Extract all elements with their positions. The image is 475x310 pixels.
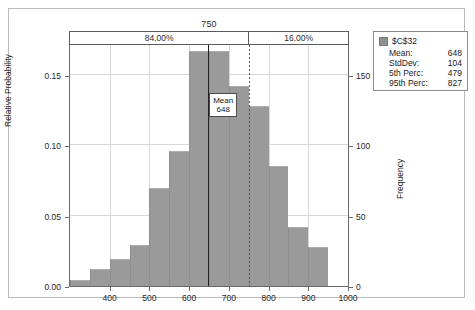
legend-series-row: $C$32: [379, 36, 462, 46]
x-tick-label: 900: [288, 293, 328, 303]
legend-stat-row: StdDev:104: [379, 58, 462, 68]
mean-line[interactable]: [208, 45, 209, 286]
histogram-bar[interactable]: [70, 280, 90, 286]
x-tick-label: 500: [129, 293, 169, 303]
x-tick-mark: [189, 287, 190, 291]
histogram-bar[interactable]: [209, 51, 229, 286]
y-tick-mark-left: [65, 217, 69, 218]
certainty-band-right-percent: 16.00%: [249, 32, 348, 44]
certainty-threshold-label: 750: [69, 19, 349, 29]
legend-stats-list: Mean:648StdDev:1045th Perc:47995th Perc:…: [379, 48, 462, 88]
y-tick-mark-right: [349, 146, 353, 147]
forecast-chart-window: 750 84.00% 16.00% Mean648 Relative Proba…: [8, 8, 465, 298]
y-tick-label-right: 0: [356, 282, 390, 292]
x-tick-label: 700: [209, 293, 249, 303]
y-tick-label-right: 150: [356, 71, 390, 81]
histogram-bar[interactable]: [249, 106, 269, 286]
histogram-bar[interactable]: [130, 245, 150, 286]
y-axis-title-right: Frequency: [395, 159, 405, 199]
x-tick-label: 400: [90, 293, 130, 303]
histogram-bar[interactable]: [189, 51, 209, 286]
legend-color-swatch-icon: [379, 37, 388, 46]
x-tick-mark: [348, 287, 349, 291]
legend-stat-value: 827: [440, 78, 462, 88]
certainty-divider-line[interactable]: [249, 45, 250, 286]
histogram-bar[interactable]: [90, 269, 110, 286]
y-tick-mark-right: [349, 76, 353, 77]
legend-stat-value: 479: [440, 68, 462, 78]
legend-stat-value: 104: [440, 58, 462, 68]
legend-stat-value: 648: [440, 48, 462, 58]
y-tick-mark-right: [349, 287, 353, 288]
histogram-bar[interactable]: [308, 247, 328, 286]
legend-stat-label: Mean:: [389, 48, 440, 58]
x-tick-mark: [269, 287, 270, 291]
histogram-plot-area: Mean648: [69, 45, 349, 287]
y-tick-label-left: 0.05: [27, 212, 61, 222]
y-tick-mark-right: [349, 217, 353, 218]
y-axis-title-left: Relative Probability: [3, 54, 13, 127]
x-tick-label: 800: [249, 293, 289, 303]
y-tick-mark-left: [65, 146, 69, 147]
histogram-bar[interactable]: [169, 151, 189, 286]
legend-stat-row: Mean:648: [379, 48, 462, 58]
plot-inner: Mean648: [70, 45, 348, 286]
x-tick-label: 1000: [328, 293, 368, 303]
y-tick-label-right: 50: [356, 212, 390, 222]
y-tick-label-left: 0.00: [27, 282, 61, 292]
histogram-bar[interactable]: [269, 166, 289, 286]
legend-stat-row: 95th Perc:827: [379, 78, 462, 88]
x-tick-mark: [149, 287, 150, 291]
legend-stat-label: 5th Perc:: [389, 68, 440, 78]
histogram-bar[interactable]: [110, 259, 130, 286]
mean-label-text: Mean: [213, 96, 233, 105]
y-tick-label-right: 100: [356, 141, 390, 151]
histogram-bar[interactable]: [149, 188, 169, 286]
x-gridline: [110, 45, 111, 286]
x-tick-mark: [229, 287, 230, 291]
y-tick-mark-left: [65, 76, 69, 77]
legend-stat-label: StdDev:: [389, 58, 440, 68]
mean-label-box[interactable]: Mean648: [209, 93, 237, 117]
x-tick-mark: [308, 287, 309, 291]
x-tick-mark: [110, 287, 111, 291]
certainty-band[interactable]: 84.00% 16.00%: [69, 31, 349, 45]
y-tick-label-left: 0.15: [27, 71, 61, 81]
legend-series-name: $C$32: [392, 36, 417, 46]
mean-label-value: 648: [213, 105, 233, 114]
x-tick-label: 600: [169, 293, 209, 303]
certainty-band-left-percent: 84.00%: [70, 32, 249, 44]
y-tick-mark-left: [65, 287, 69, 288]
legend-stat-label: 95th Perc:: [389, 78, 440, 88]
legend-stat-row: 5th Perc:479: [379, 68, 462, 78]
y-tick-label-left: 0.10: [27, 141, 61, 151]
legend-statistics-box[interactable]: $C$32 Mean:648StdDev:1045th Perc:47995th…: [373, 31, 468, 91]
histogram-bar[interactable]: [288, 227, 308, 286]
